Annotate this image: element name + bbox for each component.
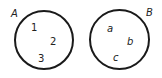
set-a-element-2: 2 (50, 37, 56, 47)
set-a-element-1: 1 (31, 23, 37, 33)
set-b-label: B (146, 8, 153, 18)
set-a-element-3: 3 (38, 54, 44, 64)
set-b-circle (89, 9, 150, 70)
set-b-element-a: a (107, 24, 113, 34)
set-a-label: A (11, 9, 18, 19)
set-b-element-b: b (127, 37, 133, 47)
set-b-element-c: c (113, 53, 119, 63)
set-diagram: A 1 2 3 B a b c (0, 0, 162, 78)
